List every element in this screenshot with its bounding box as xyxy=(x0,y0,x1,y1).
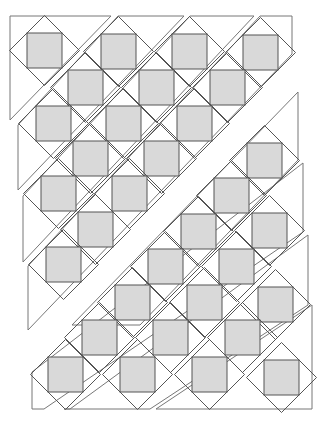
gray-square xyxy=(46,247,81,282)
gray-square xyxy=(78,212,113,247)
gray-square xyxy=(247,143,282,178)
gray-square xyxy=(144,141,179,176)
gray-square xyxy=(27,33,62,68)
gray-square xyxy=(153,320,188,355)
gray-square xyxy=(214,178,249,213)
gray-square xyxy=(101,34,136,69)
gray-square xyxy=(177,106,212,141)
gray-square xyxy=(264,360,299,395)
gray-square xyxy=(192,357,227,392)
gray-square xyxy=(36,106,71,141)
quilt-pattern-svg xyxy=(0,0,328,425)
gray-square xyxy=(258,287,293,322)
gray-square xyxy=(225,320,260,355)
quilt-diagram xyxy=(0,0,328,425)
gray-square xyxy=(210,70,245,105)
gray-square xyxy=(181,214,216,249)
gray-square xyxy=(115,285,150,320)
gray-square xyxy=(243,35,278,70)
gray-square xyxy=(219,249,254,284)
gray-square xyxy=(48,357,83,392)
gray-square xyxy=(112,176,147,211)
gray-square xyxy=(120,357,155,392)
gray-square xyxy=(172,34,207,69)
gray-square xyxy=(148,249,183,284)
gray-square xyxy=(252,213,287,248)
gray-square xyxy=(73,141,108,176)
gray-square xyxy=(68,70,103,105)
gray-square xyxy=(41,176,76,211)
gray-square xyxy=(139,70,174,105)
gray-square xyxy=(106,106,141,141)
gray-square xyxy=(187,285,222,320)
gray-square xyxy=(82,320,117,355)
